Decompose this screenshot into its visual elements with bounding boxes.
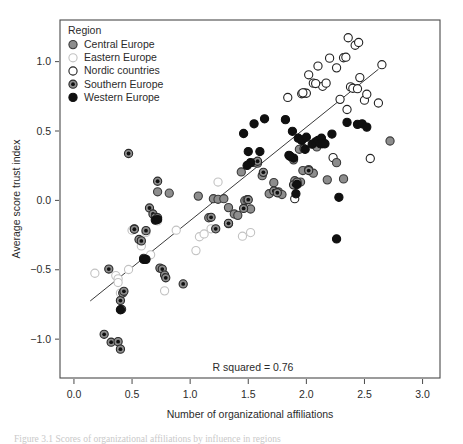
data-point bbox=[328, 130, 336, 138]
data-point bbox=[321, 140, 329, 148]
data-point-center bbox=[139, 239, 143, 243]
data-point bbox=[323, 176, 331, 184]
data-point-center bbox=[227, 221, 231, 225]
data-point-center bbox=[242, 207, 246, 211]
data-point bbox=[256, 147, 264, 155]
data-point-center bbox=[119, 299, 123, 303]
data-point bbox=[332, 64, 340, 72]
legend-item-eastern-europe[interactable]: Eastern Europe bbox=[69, 51, 157, 63]
data-point bbox=[292, 190, 300, 198]
data-point bbox=[200, 230, 208, 238]
data-point bbox=[332, 159, 340, 167]
y-tick-label: 1.0 bbox=[36, 55, 51, 67]
data-point-center bbox=[109, 340, 113, 344]
data-point bbox=[363, 90, 371, 98]
data-point bbox=[154, 215, 162, 223]
data-point-center bbox=[261, 170, 265, 174]
data-point bbox=[220, 195, 228, 203]
data-point bbox=[214, 178, 222, 186]
x-tick-label: 2.0 bbox=[299, 388, 314, 400]
legend-marker bbox=[69, 67, 77, 75]
x-tick-label: 0.5 bbox=[125, 388, 140, 400]
data-point bbox=[244, 147, 252, 155]
data-point bbox=[344, 34, 352, 42]
data-point-center bbox=[275, 191, 279, 195]
data-point bbox=[250, 120, 258, 128]
data-point-center bbox=[127, 152, 131, 156]
data-point bbox=[353, 85, 361, 93]
y-tick-label: 0.0 bbox=[36, 194, 51, 206]
r-squared-annotation: R squared = 0.76 bbox=[213, 361, 294, 373]
data-point bbox=[281, 116, 289, 124]
data-point-center bbox=[164, 276, 168, 280]
data-point bbox=[172, 226, 180, 234]
data-point-center bbox=[148, 206, 152, 210]
data-point bbox=[322, 79, 330, 87]
legend-item-nordic-countries[interactable]: Nordic countries bbox=[69, 64, 160, 76]
x-tick-label: 1.0 bbox=[183, 388, 198, 400]
data-point bbox=[336, 95, 344, 103]
legend-item-western-europe[interactable]: Western Europe bbox=[69, 91, 160, 103]
data-point-center bbox=[102, 332, 106, 336]
y-axis-title: Average score trust index bbox=[10, 139, 22, 259]
legend-label: Eastern Europe bbox=[84, 51, 157, 63]
legend-marker bbox=[69, 54, 77, 62]
data-point bbox=[293, 180, 301, 188]
data-point bbox=[154, 188, 162, 196]
data-point bbox=[114, 278, 122, 286]
x-tick-label: 3.0 bbox=[415, 388, 430, 400]
data-point bbox=[301, 145, 309, 153]
data-point bbox=[124, 265, 132, 273]
legend-title: Region bbox=[68, 24, 101, 36]
data-point bbox=[339, 175, 347, 183]
x-tick-label: 1.5 bbox=[241, 388, 256, 400]
data-point-center bbox=[307, 169, 311, 173]
x-axis-title: Number of organizational affiliations bbox=[167, 408, 334, 420]
legend-marker-center bbox=[71, 82, 75, 86]
data-point bbox=[343, 118, 351, 126]
series-nordic-countries bbox=[284, 34, 386, 203]
legend-marker bbox=[69, 93, 77, 101]
data-point bbox=[386, 137, 394, 145]
data-point bbox=[302, 133, 310, 141]
data-point-center bbox=[181, 282, 185, 286]
data-point bbox=[343, 105, 351, 113]
data-point bbox=[326, 54, 334, 62]
data-point bbox=[246, 228, 254, 236]
data-point bbox=[284, 93, 292, 101]
data-point bbox=[312, 79, 320, 87]
data-point bbox=[91, 269, 99, 277]
data-point bbox=[243, 161, 251, 169]
y-tick-label: 0.5 bbox=[36, 125, 51, 137]
data-point bbox=[234, 211, 242, 219]
legend-label: Southern Europe bbox=[84, 78, 164, 90]
data-point-center bbox=[209, 215, 213, 219]
y-tick-label: −1.0 bbox=[30, 333, 51, 345]
data-point bbox=[260, 115, 268, 123]
data-point-center bbox=[156, 179, 160, 183]
data-point-center bbox=[119, 347, 123, 351]
figure-caption: Figure 3.1 Scores of organizational affi… bbox=[14, 434, 454, 444]
data-point bbox=[288, 127, 296, 135]
data-point-center bbox=[246, 198, 250, 202]
data-point bbox=[335, 193, 343, 201]
data-point-center bbox=[132, 227, 136, 231]
data-point bbox=[238, 232, 246, 240]
data-point bbox=[366, 154, 374, 162]
data-point bbox=[160, 287, 168, 295]
legend-item-southern-europe[interactable]: Southern Europe bbox=[69, 78, 164, 90]
data-point bbox=[314, 62, 322, 70]
data-point-center bbox=[144, 229, 148, 233]
data-point bbox=[165, 189, 173, 197]
legend-label: Western Europe bbox=[84, 91, 160, 103]
legend-marker bbox=[69, 41, 77, 49]
data-point bbox=[286, 152, 294, 160]
data-point bbox=[194, 192, 202, 200]
data-point bbox=[332, 235, 340, 243]
data-point bbox=[363, 123, 371, 131]
data-point bbox=[305, 71, 313, 79]
data-point bbox=[270, 179, 278, 187]
legend-item-central-europe[interactable]: Central Europe bbox=[69, 38, 155, 50]
